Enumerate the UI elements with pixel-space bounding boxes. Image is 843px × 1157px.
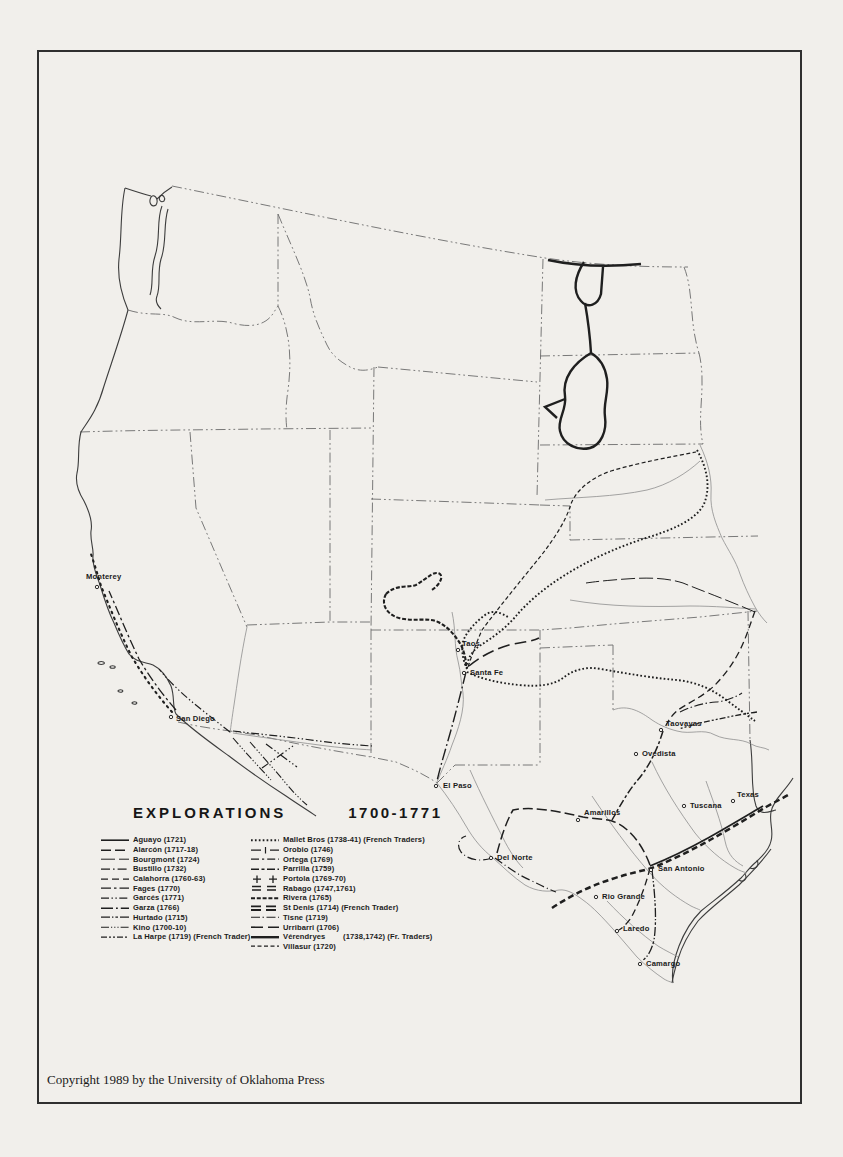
copyright-line: Copyright 1989 by the University of Okla…: [47, 1072, 325, 1088]
place-marker: [649, 868, 652, 871]
route-kino-east: [250, 742, 307, 805]
legend-item: Villasur (1720): [250, 942, 433, 952]
legend-line-swatch: [250, 904, 280, 912]
legend-item: Bustillo (1732): [100, 864, 250, 874]
channel-island-3: [118, 690, 123, 692]
puget-island-1: [150, 196, 157, 206]
route-parrilla: [612, 731, 663, 820]
route-verendryes-south-loop: [559, 303, 607, 449]
legend-line-swatch: [100, 836, 130, 844]
legend-line-swatch: [100, 923, 130, 931]
route-anza-crossing: [262, 744, 297, 768]
border-mt-id: [278, 214, 378, 370]
puget-sound-east: [156, 209, 168, 309]
legend-item-label: Tisne (1719): [283, 913, 328, 922]
legend-item-label: Aguayo (1721): [133, 835, 186, 844]
legend-item-label: Garza (1766): [133, 903, 179, 912]
legend-item-label: Urribarri (1706): [283, 923, 339, 932]
legend-line-swatch: [250, 846, 280, 854]
channel-island-2: [110, 666, 115, 669]
coast-baja: [176, 714, 316, 816]
legend-item-label: La Harpe (1719) (French Trader): [133, 932, 250, 941]
legend-line-swatch: [250, 923, 280, 931]
border-wa-or: [128, 306, 278, 325]
legend-line-swatch: [250, 884, 280, 892]
map-legend: EXPLORATIONS 1700-1771 Aguayo (1721)Alar…: [100, 804, 520, 951]
legend-item: Alarcón (1717-18): [100, 845, 250, 855]
platte-river: [545, 461, 700, 500]
legend-item: Kino (1700-10): [100, 922, 250, 932]
legend-item: Orobio (1746): [250, 845, 433, 855]
border-nd-east: [684, 267, 699, 353]
legend-line-swatch: [100, 904, 130, 912]
place-label: Taovayas: [666, 719, 702, 728]
border-az-ut: [247, 622, 371, 625]
legend-item-label: Vérendryes (1738,1742) (Fr. Traders): [283, 932, 433, 941]
legend-item: Garcés (1771): [100, 893, 250, 903]
legend-item: Parrilla (1759): [250, 864, 433, 874]
place-label: El Paso: [443, 781, 472, 790]
place-marker: [659, 728, 662, 731]
place-label: Taos: [462, 639, 480, 648]
border-mt-south: [378, 367, 537, 382]
place-marker: [95, 585, 98, 588]
legend-line-swatch: [100, 894, 130, 902]
legend-item: La Harpe (1719) (French Trader): [100, 932, 250, 942]
border-ok-east: [748, 611, 750, 740]
legend-item-label: Bustillo (1732): [133, 864, 186, 873]
place-label: San Antonio: [658, 864, 705, 873]
legend-item: Vérendryes (1738,1742) (Fr. Traders): [250, 932, 433, 942]
legend-item-label: Fages (1770): [133, 884, 180, 893]
place-label: Santa Fe: [470, 668, 503, 677]
place-label: Tuscana: [690, 801, 722, 810]
border-sd-east: [699, 353, 703, 444]
legend-item-label: Rivera (1765): [283, 893, 332, 902]
route-bourgmont: [586, 578, 755, 612]
legend-item: Aguayo (1721): [100, 835, 250, 845]
place-marker: [638, 962, 641, 965]
legend-item: Bourgmont (1724): [100, 854, 250, 864]
legend-line-swatch: [100, 846, 130, 854]
place-marker: [456, 648, 459, 651]
border-42n: [80, 428, 372, 432]
legend-item: Hurtado (1715): [100, 913, 250, 923]
colorado-river-az: [230, 627, 247, 733]
place-marker: [682, 804, 685, 807]
puget-sound-west: [150, 206, 162, 295]
legend-item-label: Parrilla (1759): [283, 864, 334, 873]
route-garces-gila: [233, 731, 372, 746]
place-label: Ovedista: [642, 749, 676, 758]
legend-line-swatch: [250, 933, 280, 941]
route-aguayo: [650, 806, 763, 866]
legend-column-right: Mallet Bros (1738-41) (French Traders)Or…: [250, 835, 433, 951]
puget-island-2: [159, 195, 164, 201]
border-or-id: [278, 306, 290, 430]
place-marker: [434, 784, 437, 787]
place-marker: [634, 752, 637, 755]
legend-item-label: Calahorra (1760-63): [133, 874, 205, 883]
coast-washington: [119, 188, 128, 310]
legend-item-label: Rabago (1747,1761): [283, 884, 356, 893]
legend-line-swatch: [250, 913, 280, 921]
route-villasur: [468, 452, 696, 667]
border-ne-ks: [570, 536, 758, 540]
channel-island-1: [98, 661, 104, 664]
legend-item-label: Bourgmont (1724): [133, 855, 200, 864]
border-mexico: [178, 722, 437, 783]
channel-island-4: [132, 702, 137, 704]
strait-juan-de-fuca: [125, 187, 172, 199]
legend-line-swatch: [250, 865, 280, 873]
legend-item: Garza (1766): [100, 903, 250, 913]
legend-item: Ortega (1769): [250, 854, 433, 864]
brazos-river: [652, 762, 747, 873]
place-label: Rio Grande: [602, 892, 645, 901]
route-mallet-east: [467, 668, 755, 721]
route-verendryes-border: [548, 260, 641, 266]
place-label: Camargo: [646, 959, 680, 968]
legend-line-swatch: [250, 894, 280, 902]
place-label: San Diego: [176, 714, 215, 723]
gila-river: [233, 733, 372, 750]
legend-item: Calahorra (1760-63): [100, 874, 250, 884]
legend-item-label: Garcés (1771): [133, 893, 184, 902]
legend-item-label: Kino (1700-10): [133, 923, 186, 932]
